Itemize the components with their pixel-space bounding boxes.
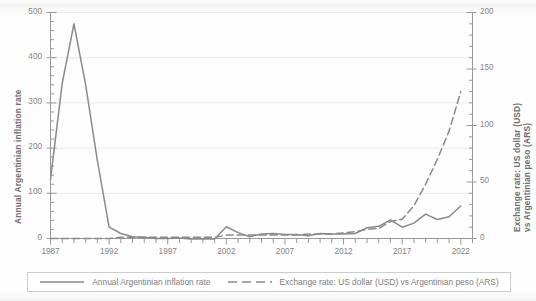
y2-axis-title-line1: Exchange rate: US dollar (USD) — [512, 103, 522, 232]
y-axis-tick-label: 400 — [16, 52, 42, 61]
series-line-exchange-rate — [51, 92, 461, 239]
legend-item-inflation[interactable]: Annual Argentinian inflation rate — [39, 277, 210, 287]
y-axis-tick-label: 500 — [16, 7, 42, 16]
chart-figure: Annual Argentinian inflation rate Exchan… — [0, 0, 536, 301]
chart-legend: Annual Argentinian inflation rate Exchan… — [27, 272, 511, 292]
dashed-line-icon — [227, 278, 273, 286]
y-axis-title: Annual Argentinian inflation rate — [13, 90, 23, 224]
y-axis-tick-label: 300 — [16, 97, 42, 106]
y2-axis-title-line2: vs Argentinian peso (ARS) — [522, 123, 532, 232]
y2-axis-tick-label: 0 — [480, 233, 510, 242]
x-axis-tick-label: 2017 — [382, 247, 422, 256]
x-axis-tick-label: 2022 — [441, 247, 481, 256]
legend-label-inflation: Annual Argentinian inflation rate — [92, 277, 210, 287]
x-axis-tick-label: 1997 — [148, 247, 188, 256]
y-axis-tick-label: 100 — [16, 187, 42, 196]
y-axis-tick-label: 200 — [16, 142, 42, 151]
plot-area — [0, 0, 536, 301]
x-axis-tick-label: 2012 — [324, 247, 364, 256]
legend-item-exchange-rate[interactable]: Exchange rate: US dollar (USD) vs Argent… — [227, 277, 499, 287]
y2-axis-tick-label: 100 — [480, 120, 510, 129]
x-axis-tick-label: 1992 — [89, 247, 129, 256]
x-axis-tick-label: 2002 — [206, 247, 246, 256]
x-axis-tick-label: 1987 — [31, 247, 71, 256]
x-axis-tick-label: 2007 — [265, 247, 305, 256]
y2-axis-tick-label: 150 — [480, 63, 510, 72]
y2-axis-tick-label: 200 — [480, 7, 510, 16]
y2-axis-tick-label: 50 — [480, 176, 510, 185]
series-line-inflation — [51, 24, 461, 239]
solid-line-icon — [39, 278, 85, 286]
legend-label-exchange-rate: Exchange rate: US dollar (USD) vs Argent… — [280, 277, 499, 287]
y-axis-tick-label: 0 — [16, 233, 42, 242]
